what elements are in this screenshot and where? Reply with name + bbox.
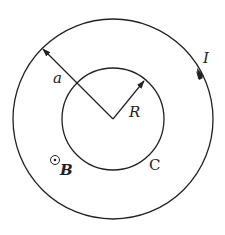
label-c: C [149, 156, 160, 174]
field-dot-icon [54, 159, 57, 162]
label-r: R [128, 103, 140, 121]
label-i: I [202, 49, 210, 67]
diagram-canvas: a R I C B [0, 0, 225, 235]
label-a: a [53, 69, 62, 87]
label-b: B [59, 161, 73, 179]
